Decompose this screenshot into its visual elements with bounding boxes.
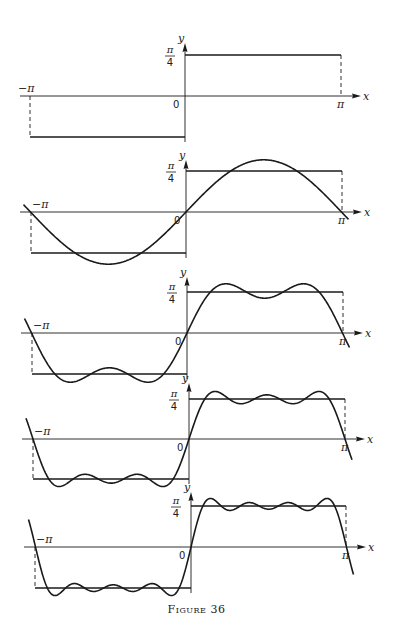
y-axis-label: y [177,32,185,45]
x-axis-label: x [367,433,374,446]
x-axis-label: x [364,206,371,219]
level-label-numerator: π [168,281,176,292]
chart-panel-5: xyπ40π−π [24,481,375,596]
y-axis-label: y [183,481,191,494]
y-axis-label: y [178,149,186,162]
figure-caption: Figure 36 [0,603,393,616]
right-limit-label: π [336,98,345,111]
level-label-numerator: π [167,160,175,171]
x-axis-label: x [365,327,372,340]
level-label-denominator: 4 [173,508,179,519]
chart-panel-2: xyπ40π−π [20,149,371,264]
left-limit-label: −π [33,319,50,332]
chart-panel-4: xyπ40π−π [22,372,374,487]
x-axis-arrow-icon [357,545,366,550]
chart-panel-3: xyπ40π−π [21,266,372,382]
x-axis-arrow-icon [354,331,363,336]
y-axis-label: y [179,266,187,279]
level-label-denominator: 4 [167,57,173,68]
origin-label: 0 [179,550,185,561]
left-limit-label: −π [36,533,53,546]
level-label-numerator: π [166,44,174,55]
level-label-denominator: 4 [168,173,174,184]
chart-panel-1: xyπ40π−π [18,32,370,142]
x-axis-label: x [363,90,370,103]
origin-label: 0 [173,99,179,110]
x-axis-arrow-icon [353,210,362,215]
x-axis-label: x [368,541,375,554]
y-axis-label: y [181,372,189,385]
origin-label: 0 [177,442,183,453]
level-label-numerator: π [170,388,178,399]
figure-36: xyπ40π−πxyπ40π−πxyπ40π−πxyπ40π−πxyπ40π−π [0,0,393,637]
x-axis-arrow-icon [352,94,361,99]
left-limit-label: −π [34,425,51,438]
left-limit-label: −π [18,82,35,95]
level-label-denominator: 4 [171,401,177,412]
x-axis-arrow-icon [356,437,365,442]
right-limit-label: π [338,335,347,348]
level-label-denominator: 4 [169,294,175,305]
left-limit-label: −π [32,198,49,211]
level-label-numerator: π [172,495,180,506]
